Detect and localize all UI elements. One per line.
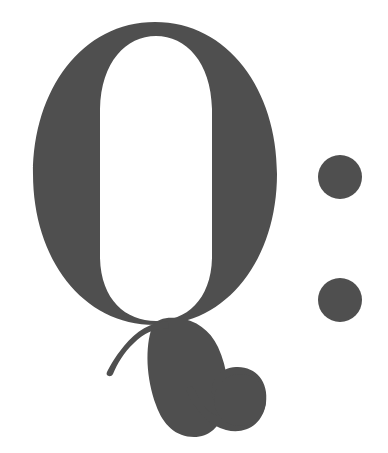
colon-dot-lower [318, 278, 362, 322]
glyph-svg-root [0, 0, 388, 453]
q-tail-ball-terminal [214, 374, 266, 426]
q-bowl-path [33, 22, 277, 325]
colon-dot-upper [318, 155, 362, 199]
glyph-artwork-canvas: Q: [0, 0, 388, 453]
colon-glyph [318, 155, 362, 322]
capital-q-glyph [33, 22, 277, 437]
